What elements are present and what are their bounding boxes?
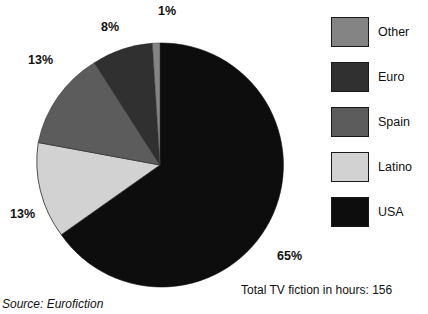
legend-swatch-latino — [331, 152, 369, 182]
slice-label-euro: 8% — [101, 20, 119, 34]
legend-label-usa: USA — [378, 205, 404, 219]
legend-item-spain: Spain — [331, 99, 428, 144]
pie-chart-figure: 1% 8% 13% 13% 65% Other Euro Spain Latin… — [0, 0, 428, 314]
source-note: Source: Eurofiction — [2, 297, 103, 311]
pie-chart-svg — [0, 0, 320, 300]
slice-label-other: 1% — [158, 4, 176, 18]
legend-swatch-usa — [331, 197, 369, 227]
legend-swatch-euro — [331, 62, 369, 92]
legend-item-other: Other — [331, 9, 428, 54]
slice-label-latino: 13% — [10, 207, 35, 221]
pie-chart-area: 1% 8% 13% 13% 65% — [0, 0, 320, 300]
legend-item-euro: Euro — [331, 54, 428, 99]
slice-label-spain: 13% — [28, 53, 53, 67]
legend-swatch-other — [331, 17, 369, 47]
chart-legend: Other Euro Spain Latino USA — [331, 9, 428, 234]
legend-item-usa: USA — [331, 189, 428, 234]
legend-label-spain: Spain — [378, 115, 410, 129]
legend-item-latino: Latino — [331, 144, 428, 189]
legend-swatch-spain — [331, 107, 369, 137]
total-hours-note: Total TV fiction in hours: 156 — [241, 283, 392, 297]
legend-label-latino: Latino — [378, 160, 412, 174]
legend-label-other: Other — [378, 25, 409, 39]
slice-label-usa: 65% — [277, 249, 302, 263]
legend-label-euro: Euro — [378, 70, 404, 84]
